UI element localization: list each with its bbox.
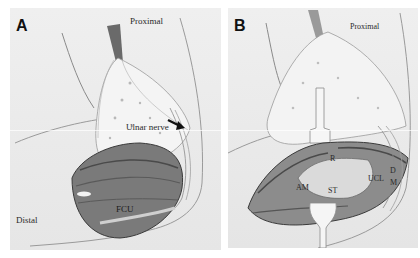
label-proximal: Proximal [350,22,379,31]
scan-artifact-line [0,130,420,131]
panel-b-drawing [228,8,418,248]
label-st: ST [328,186,337,195]
label-ucl: UCL [368,174,384,183]
label-distal: Distal [16,215,38,225]
label-proximal: Proximal [130,16,163,26]
label-r: R [330,154,335,163]
label-am: AM [296,183,309,192]
label-m: M [390,178,397,187]
panel-a-letter: A [16,17,28,35]
label-d: D [390,166,396,175]
panel-b-letter: B [234,17,246,35]
panel-a-illustration: A Proximal Ulnar nerve Distal FCU [10,8,221,250]
panel-b-illustration: B Proximal R D UCL M AM ST [228,8,418,248]
label-fcu: FCU [116,204,134,214]
